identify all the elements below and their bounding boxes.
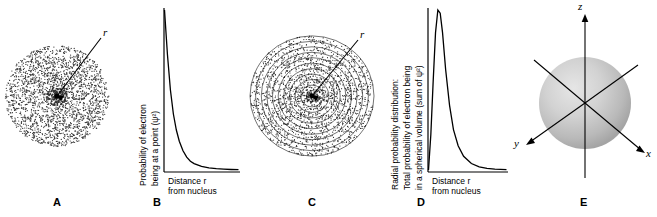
panel-letter-d: D <box>417 196 425 208</box>
panel-d-curve <box>429 10 507 170</box>
panel-letter-b: B <box>153 196 161 208</box>
panel-a-electron-cloud: r A <box>0 0 130 217</box>
panel-d-radial-probability-plot: Radial probability distribution: Total p… <box>388 0 514 217</box>
z-axis-arrowhead <box>582 14 589 22</box>
panel-letter-c: C <box>308 196 316 208</box>
panel-c-concentric-shells: r C <box>246 0 388 217</box>
sphere-orbital-diagram <box>514 0 657 200</box>
panel-b-probability-plot: Probability of electron being at a point… <box>130 0 246 217</box>
concentric-shells-diagram <box>246 0 388 200</box>
panel-d-xlabel-line-1: Distance r <box>432 176 481 186</box>
panel-d-xlabel-line-2: from nucleus <box>432 186 481 196</box>
electron-cloud-dot-density-diagram <box>0 0 130 200</box>
x-axis-label: x <box>646 147 651 159</box>
panel-letter-a: A <box>53 196 61 208</box>
z-axis-label: z <box>578 0 582 12</box>
figure-electron-probability-panels: r A Probability of electron being at a p… <box>0 0 657 217</box>
panel-e-sphere-orbital: z y x E <box>514 0 657 217</box>
panel-d-xlabel: Distance r from nucleus <box>432 176 481 196</box>
panel-b-plot <box>130 0 246 200</box>
panel-b-xlabel-line-2: from nucleus <box>168 186 217 196</box>
panel-b-xlabel: Distance r from nucleus <box>168 176 217 196</box>
panel-b-curve <box>165 10 239 170</box>
radius-label-c: r <box>360 28 364 40</box>
y-axis-label: y <box>514 137 519 149</box>
panel-d-plot <box>388 0 514 200</box>
y-axis-arrowhead <box>526 138 535 146</box>
radius-label-a: r <box>103 26 107 38</box>
panel-letter-e: E <box>580 196 587 208</box>
panel-b-xlabel-line-1: Distance r <box>168 176 217 186</box>
